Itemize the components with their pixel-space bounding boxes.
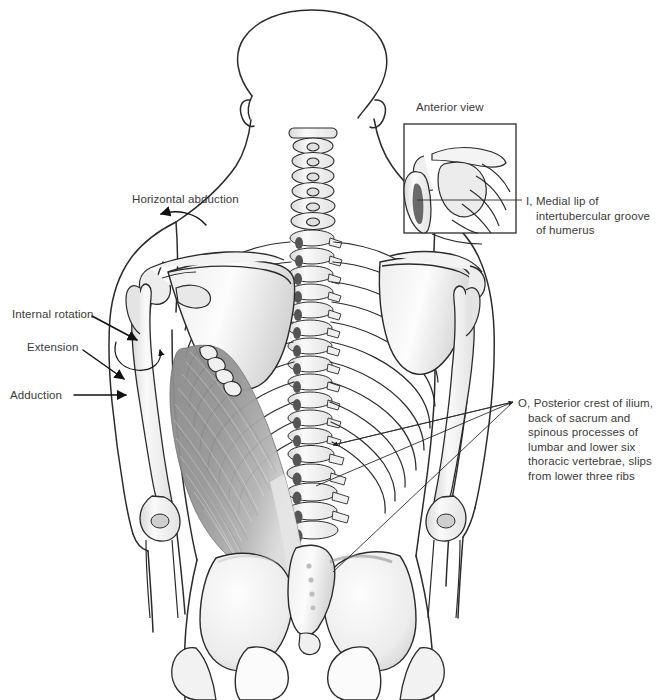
anatomical-illustration bbox=[0, 0, 662, 700]
anterior-view-inset bbox=[404, 124, 516, 244]
